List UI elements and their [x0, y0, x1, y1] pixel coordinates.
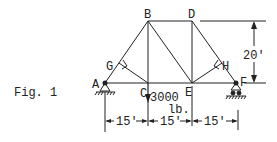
span-arrow-left-2-icon: [148, 119, 154, 123]
node-label-G: G: [106, 60, 113, 74]
height-arrow-up-icon: [251, 21, 257, 29]
member-GC: [119, 63, 148, 83]
node-label-E: E: [185, 86, 192, 100]
span-label-1: 15': [116, 115, 138, 129]
span-label-3: 15': [204, 115, 226, 129]
figure-caption: Fig. 1: [14, 86, 57, 100]
truss-diagram: Fig. 1 A B C D E F G H 3000 lb. 20' 15' …: [0, 0, 277, 142]
node-label-F: F: [240, 76, 247, 90]
node-label-B: B: [144, 8, 151, 22]
span-arrow-right-1-icon: [142, 119, 148, 123]
span-label-2: 15': [160, 115, 182, 129]
node-label-A: A: [92, 78, 100, 92]
member-EH: [192, 63, 222, 83]
span-arrow-right-3-icon: [232, 119, 238, 123]
node-label-D: D: [188, 8, 195, 22]
node-label-C: C: [140, 87, 147, 101]
span-arrow-left-3-icon: [192, 119, 198, 123]
member-DF: [192, 21, 236, 83]
height-dimension-label: 20': [243, 49, 265, 63]
span-arrow-left-1-icon: [105, 119, 111, 123]
node-label-H: H: [222, 60, 229, 74]
span-arrow-right-2-icon: [186, 119, 192, 123]
member-BE: [148, 21, 192, 83]
height-arrow-down-icon: [251, 75, 257, 83]
